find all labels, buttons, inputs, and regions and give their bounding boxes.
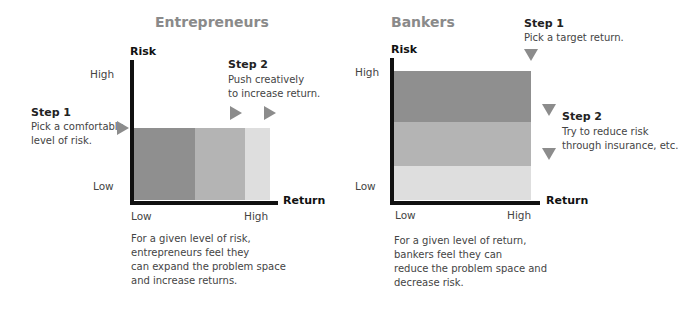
- right-triangle-icon: [230, 106, 242, 120]
- bankers-y-axis-label: Risk: [391, 43, 417, 56]
- bankers-band-light: [394, 166, 531, 200]
- entrepreneurs-x-low-label: Low: [131, 210, 152, 222]
- entrepreneurs-x-axis-label: Return: [283, 194, 325, 207]
- entrepreneurs-step2-text: Push creatively to increase return.: [228, 73, 320, 101]
- bankers-step2-heading: Step 2: [562, 110, 602, 123]
- bankers-step1-text: Pick a target return.: [524, 31, 624, 45]
- right-triangle-icon: [117, 121, 129, 135]
- bankers-x-low-label: Low: [395, 209, 416, 221]
- entrepreneurs-band-light: [245, 128, 270, 200]
- bankers-y-axis: [390, 58, 394, 205]
- bankers-y-high-label: High: [355, 66, 379, 78]
- bankers-step1-heading: Step 1: [524, 17, 564, 30]
- down-triangle-icon: [542, 104, 556, 116]
- bankers-step2-text: Try to reduce risk through insurance, et…: [562, 125, 678, 153]
- bankers-band-dark: [394, 71, 531, 122]
- entrepreneurs-y-high-label: High: [90, 68, 114, 80]
- entrepreneurs-caption: For a given level of risk, entrepreneurs…: [131, 232, 286, 288]
- entrepreneurs-band-medium: [195, 128, 245, 200]
- entrepreneurs-x-high-label: High: [244, 210, 268, 222]
- entrepreneurs-step1-text: Pick a comfortable level of risk.: [31, 120, 124, 148]
- entrepreneurs-title: Entrepreneurs: [155, 14, 269, 30]
- entrepreneurs-y-axis: [130, 60, 134, 205]
- entrepreneurs-step2-heading: Step 2: [228, 58, 268, 71]
- bankers-y-low-label: Low: [355, 180, 376, 192]
- bankers-caption: For a given level of return, bankers fee…: [394, 234, 547, 290]
- bankers-band-medium: [394, 122, 531, 166]
- bankers-title: Bankers: [391, 14, 455, 30]
- bankers-x-axis: [390, 201, 540, 205]
- entrepreneurs-y-axis-label: Risk: [130, 45, 156, 58]
- entrepreneurs-y-low-label: Low: [93, 180, 114, 192]
- entrepreneurs-step1-heading: Step 1: [31, 106, 71, 119]
- entrepreneurs-x-axis: [130, 201, 278, 205]
- down-triangle-icon: [524, 49, 538, 61]
- bankers-x-high-label: High: [507, 209, 531, 221]
- down-triangle-icon: [542, 148, 556, 160]
- bankers-x-axis-label: Return: [546, 194, 588, 207]
- right-triangle-icon: [264, 106, 276, 120]
- entrepreneurs-band-dark: [134, 128, 195, 200]
